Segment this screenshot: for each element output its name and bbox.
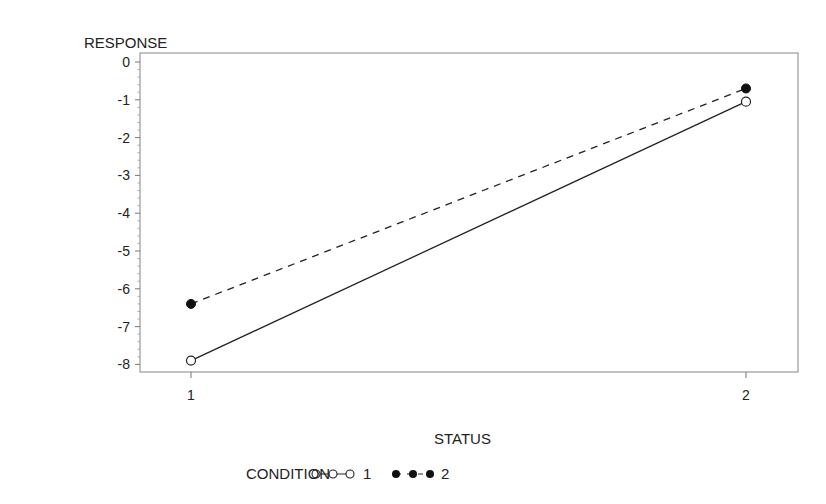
y-tick-label: -2 xyxy=(118,130,131,146)
legend-marker-filled xyxy=(426,470,434,478)
plot-frame xyxy=(140,53,798,372)
series-line-1 xyxy=(191,102,746,361)
y-tick-label: -1 xyxy=(118,92,131,108)
line-chart: 0-1-2-3-4-5-6-7-812 xyxy=(0,0,826,504)
data-point-filled xyxy=(742,84,751,93)
y-tick-label: -6 xyxy=(118,281,131,297)
x-axis-label: STATUS xyxy=(434,430,491,447)
legend-title: CONDITION xyxy=(246,465,330,482)
y-tick-label: -5 xyxy=(118,243,131,259)
x-tick-label: 2 xyxy=(742,387,750,403)
series-line-2 xyxy=(191,88,746,303)
y-tick-label: -7 xyxy=(118,319,131,335)
y-axis-label: RESPONSE xyxy=(84,34,167,51)
legend-marker-open xyxy=(329,470,337,478)
data-point-filled xyxy=(187,299,196,308)
legend-label-1: 1 xyxy=(363,465,371,482)
y-tick-label: -3 xyxy=(118,167,131,183)
legend-marker-filled xyxy=(392,470,400,478)
data-point-open xyxy=(742,97,751,106)
x-tick-label: 1 xyxy=(187,387,195,403)
legend-marker-open xyxy=(346,470,354,478)
y-tick-label: 0 xyxy=(122,54,130,70)
data-point-open xyxy=(187,356,196,365)
legend-label-2: 2 xyxy=(441,465,449,482)
y-tick-label: -4 xyxy=(118,205,131,221)
legend-marker-filled xyxy=(409,470,417,478)
y-tick-label: -8 xyxy=(118,356,131,372)
